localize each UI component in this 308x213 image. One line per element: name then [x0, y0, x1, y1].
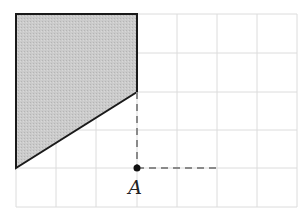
point-a-dot	[134, 165, 141, 172]
point-a-label: A	[126, 176, 142, 198]
grid-diagram: A	[0, 0, 308, 213]
shaded-polygon	[16, 14, 137, 168]
